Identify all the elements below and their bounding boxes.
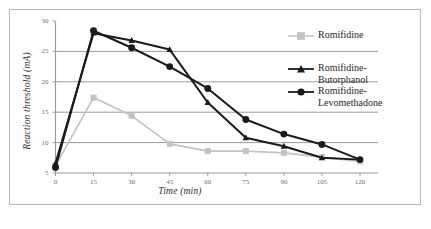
legend-item-romifidine-levomethadone: Romifidine- Levomethadone bbox=[288, 85, 382, 108]
y-tick-label: 30 bbox=[33, 17, 49, 25]
legend-label-group: Romifidine- Butorphanol bbox=[318, 62, 368, 85]
legend-item-romifidine: Romifidine bbox=[288, 29, 364, 41]
legend-label-line1: Romifidine- bbox=[318, 85, 382, 97]
data-point bbox=[90, 27, 97, 34]
y-tick-label: 5 bbox=[33, 169, 49, 177]
y-axis-title: Reaction threshold (mA) bbox=[22, 41, 32, 161]
x-tick-label: 75 bbox=[234, 178, 258, 186]
data-point bbox=[204, 85, 211, 92]
y-tick-label: 15 bbox=[33, 108, 49, 116]
data-point bbox=[205, 149, 210, 154]
legend-label-group: Romifidine- Levomethadone bbox=[318, 85, 382, 108]
data-point bbox=[91, 95, 96, 100]
x-tick-label: 0 bbox=[44, 178, 68, 186]
data-point bbox=[128, 44, 135, 51]
y-tick-label: 10 bbox=[33, 139, 49, 147]
legend-label-line1: Romifidine- bbox=[318, 62, 368, 74]
legend-label-line1: Romifidine bbox=[318, 29, 364, 41]
data-point bbox=[357, 156, 364, 163]
data-point bbox=[167, 141, 172, 146]
legend-marker-triangle bbox=[288, 65, 314, 73]
legend-label-group: Romifidine bbox=[318, 29, 364, 41]
x-tick-label: 30 bbox=[120, 178, 144, 186]
legend-marker-square bbox=[288, 32, 314, 40]
y-tick-label: 20 bbox=[33, 78, 49, 86]
legend-label-line2: Butorphanol bbox=[318, 74, 368, 86]
x-tick-label: 120 bbox=[348, 178, 372, 186]
data-point bbox=[243, 149, 248, 154]
x-tick-label: 15 bbox=[82, 178, 106, 186]
x-tick-label: 90 bbox=[272, 178, 296, 186]
legend-label-line2: Levomethadone bbox=[318, 97, 382, 109]
legend-marker-circle bbox=[288, 88, 314, 96]
x-tick-label: 60 bbox=[196, 178, 220, 186]
data-point bbox=[318, 141, 325, 148]
data-point bbox=[280, 131, 287, 138]
data-point bbox=[281, 150, 286, 155]
legend-item-romifidine-butorphanol: Romifidine- Butorphanol bbox=[288, 62, 368, 85]
data-point bbox=[166, 63, 173, 70]
x-tick-label: 105 bbox=[310, 178, 334, 186]
x-tick-label: 45 bbox=[158, 178, 182, 186]
y-tick-label: 25 bbox=[33, 47, 49, 55]
data-point bbox=[242, 116, 249, 123]
data-point bbox=[129, 113, 134, 118]
figure-root: Reaction threshold (mA) Time (min) 51015… bbox=[0, 0, 431, 229]
data-point bbox=[52, 164, 59, 171]
x-axis-title: Time (min) bbox=[120, 186, 240, 196]
